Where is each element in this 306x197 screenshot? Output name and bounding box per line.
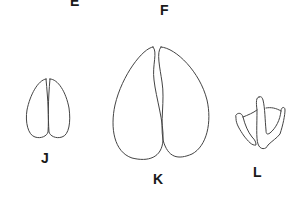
footprint-j-drawing: [26, 79, 69, 138]
label-l: L: [253, 165, 262, 179]
footprint-l-drawing: [236, 97, 285, 149]
label-k: K: [153, 172, 163, 186]
footprint-plate: E F J K L: [0, 0, 306, 197]
label-j: J: [41, 151, 49, 165]
footprint-k-drawing: [113, 47, 209, 159]
